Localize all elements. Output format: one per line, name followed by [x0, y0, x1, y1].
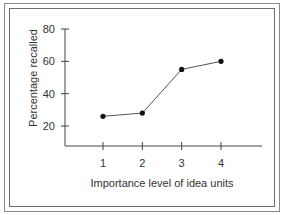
data-line [103, 61, 221, 116]
x-tick-label: 4 [218, 157, 224, 169]
data-series [100, 59, 223, 119]
x-tick-label: 2 [139, 157, 145, 169]
y-tick-label: 80 [43, 23, 55, 35]
line-chart: 20406080 1234 Percentage recalled Import… [0, 0, 284, 215]
x-axis: 1234 [65, 142, 262, 169]
y-axis-label: Percentage recalled [27, 29, 39, 127]
x-tick-label: 1 [100, 157, 106, 169]
y-tick-label: 60 [43, 55, 55, 67]
data-point [179, 67, 184, 72]
data-point [100, 114, 105, 119]
x-axis-label: Importance level of idea units [90, 177, 234, 189]
y-axis: 20406080 [43, 23, 69, 146]
y-tick-label: 40 [43, 88, 55, 100]
data-point [140, 110, 145, 115]
x-tick-label: 3 [179, 157, 185, 169]
y-tick-label: 20 [43, 120, 55, 132]
data-point [218, 59, 223, 64]
